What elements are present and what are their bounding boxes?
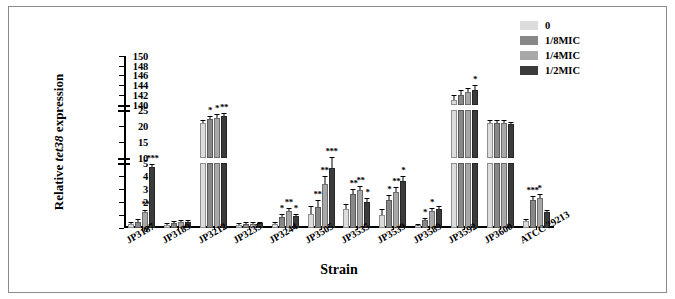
error-bar-cap bbox=[222, 113, 227, 114]
y-tick-mark bbox=[119, 228, 124, 229]
significance-marker: ** bbox=[356, 176, 364, 185]
significance-marker: ** bbox=[321, 166, 329, 175]
error-bar bbox=[439, 207, 440, 209]
y-tick-label: 15 bbox=[138, 137, 148, 148]
error-bar bbox=[203, 121, 204, 123]
error-bar-cap bbox=[150, 164, 155, 165]
legend-item[interactable]: 1/2MIC bbox=[520, 65, 580, 76]
bar bbox=[379, 215, 385, 228]
error-bar bbox=[403, 177, 404, 182]
bar bbox=[221, 163, 227, 228]
bar bbox=[458, 110, 464, 159]
error-bar-cap bbox=[530, 196, 535, 197]
bar bbox=[329, 168, 335, 228]
error-bar bbox=[418, 225, 419, 226]
significance-marker: *** bbox=[146, 154, 158, 163]
error-bar-cap bbox=[523, 219, 528, 220]
x-axis-title: Strain bbox=[124, 262, 554, 278]
bar bbox=[236, 225, 242, 228]
error-bar bbox=[295, 215, 296, 217]
error-bar-cap bbox=[322, 176, 327, 177]
legend-item[interactable]: 1/8MIC bbox=[520, 35, 580, 46]
error-bar-cap bbox=[508, 122, 513, 123]
legend-item[interactable]: 0 bbox=[520, 20, 580, 31]
bar bbox=[343, 209, 349, 228]
bar bbox=[200, 163, 206, 228]
error-bar-cap bbox=[544, 210, 549, 211]
error-bar bbox=[245, 223, 246, 224]
y-tick-mark bbox=[119, 158, 124, 159]
legend-item[interactable]: 1/4MIC bbox=[520, 50, 580, 61]
error-bar bbox=[474, 86, 475, 90]
error-bar bbox=[217, 115, 218, 117]
y-tick-label: 146 bbox=[133, 70, 148, 81]
bar bbox=[164, 225, 170, 228]
error-bar bbox=[145, 211, 146, 213]
bar bbox=[458, 95, 464, 105]
error-bar-cap bbox=[416, 224, 421, 225]
error-bar-cap bbox=[293, 214, 298, 215]
error-bar bbox=[489, 121, 490, 123]
error-bar-cap bbox=[329, 157, 334, 158]
error-bar-cap bbox=[351, 189, 356, 190]
bar bbox=[472, 110, 478, 159]
bar bbox=[501, 163, 507, 228]
bar bbox=[465, 163, 471, 228]
error-bar bbox=[274, 223, 275, 224]
error-bar bbox=[288, 209, 289, 211]
error-bar bbox=[396, 188, 397, 192]
error-bar-cap bbox=[451, 95, 456, 96]
y-tick-label: 150 bbox=[133, 51, 148, 62]
error-bar bbox=[281, 215, 282, 217]
y-tick-mark bbox=[119, 105, 124, 106]
error-bar-cap bbox=[537, 194, 542, 195]
bar bbox=[350, 194, 356, 228]
bar bbox=[214, 163, 220, 228]
figure-root: Relative tet38 expression 01234510152025… bbox=[0, 0, 675, 299]
error-bar bbox=[503, 121, 504, 123]
error-bar bbox=[367, 199, 368, 202]
legend-label: 0 bbox=[545, 20, 550, 31]
error-bar-cap bbox=[465, 88, 470, 89]
bar bbox=[465, 92, 471, 104]
bar bbox=[451, 110, 457, 159]
significance-marker: * bbox=[473, 75, 477, 84]
y-tick-mark bbox=[119, 215, 124, 216]
significance-marker: ** bbox=[220, 103, 228, 112]
legend-label: 1/2MIC bbox=[545, 65, 580, 76]
significance-marker: * bbox=[430, 198, 434, 207]
error-bar bbox=[346, 205, 347, 208]
error-bar bbox=[453, 96, 454, 100]
error-bar-cap bbox=[308, 206, 313, 207]
error-bar bbox=[310, 207, 311, 214]
y-tick-mark bbox=[119, 126, 124, 127]
error-bar-cap bbox=[380, 209, 385, 210]
axis-break-mark bbox=[118, 163, 130, 165]
bar bbox=[207, 119, 213, 158]
error-bar-cap bbox=[458, 90, 463, 91]
error-bar-cap bbox=[394, 187, 399, 188]
error-bar bbox=[510, 123, 511, 125]
error-bar bbox=[238, 224, 239, 225]
bar bbox=[508, 124, 514, 158]
legend-swatch bbox=[520, 51, 538, 60]
error-bar-cap bbox=[129, 222, 134, 223]
significance-marker: ** bbox=[314, 190, 322, 199]
significance-marker: ** bbox=[392, 177, 400, 186]
bar bbox=[472, 90, 478, 105]
bar bbox=[523, 221, 529, 228]
legend-swatch bbox=[520, 66, 538, 75]
bar bbox=[415, 225, 421, 228]
bar bbox=[508, 163, 514, 228]
error-bar bbox=[131, 223, 132, 224]
y-tick-label: 4 bbox=[143, 171, 148, 182]
legend-swatch bbox=[520, 36, 538, 45]
error-bar-cap bbox=[286, 208, 291, 209]
error-bar-cap bbox=[358, 186, 363, 187]
error-bar bbox=[425, 219, 426, 220]
y-tick-mark bbox=[119, 142, 124, 143]
error-bar-cap bbox=[387, 195, 392, 196]
bar bbox=[487, 163, 493, 228]
bar bbox=[221, 116, 227, 158]
significance-marker: *** bbox=[326, 147, 338, 156]
